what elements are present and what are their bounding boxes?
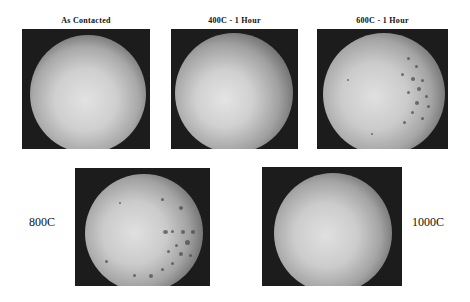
void-spot [347, 79, 349, 81]
void-spot [407, 91, 410, 94]
label-800c: 800C [29, 215, 55, 230]
void-spot [411, 77, 415, 81]
contact-disk [274, 173, 392, 286]
micrograph-as-contacted [22, 29, 150, 149]
void-spot [171, 230, 174, 233]
void-spot [417, 87, 421, 91]
micrograph-400c [171, 29, 298, 149]
contact-disk [323, 33, 445, 149]
void-spot [189, 254, 192, 257]
void-spot [179, 206, 183, 210]
label-1000c: 1000C [412, 215, 444, 230]
void-spot [149, 274, 153, 278]
micrograph-800c [75, 168, 210, 286]
void-spot [421, 79, 424, 82]
caption-600c: 600C - 1 Hour [317, 16, 448, 25]
void-spot [161, 268, 164, 271]
micrograph-1000c [262, 167, 402, 286]
void-spot [119, 202, 121, 204]
contact-disk [30, 35, 146, 149]
void-spot [371, 133, 373, 135]
void-spot [171, 262, 174, 265]
contact-disk [175, 33, 293, 149]
void-spot [407, 57, 410, 60]
caption-400c: 400C - 1 Hour [171, 16, 298, 25]
void-spot [425, 95, 428, 98]
contact-disk [85, 174, 203, 286]
void-spot [163, 230, 168, 234]
void-spot [105, 260, 108, 263]
void-spot [161, 198, 164, 201]
void-spot [415, 65, 418, 68]
void-spot [421, 117, 424, 120]
void-spot [403, 121, 406, 124]
void-spot [181, 230, 185, 234]
void-spot [401, 73, 404, 76]
void-spot [167, 250, 170, 253]
void-spot [185, 240, 190, 245]
void-spot [427, 105, 430, 108]
caption-as-contacted: As Contacted [22, 16, 150, 25]
micrograph-600c [317, 29, 448, 149]
void-spot [175, 244, 178, 247]
void-spot [411, 111, 414, 114]
void-spot [133, 274, 136, 277]
void-spot [179, 252, 183, 256]
void-spot [415, 101, 419, 105]
void-spot [191, 230, 195, 234]
